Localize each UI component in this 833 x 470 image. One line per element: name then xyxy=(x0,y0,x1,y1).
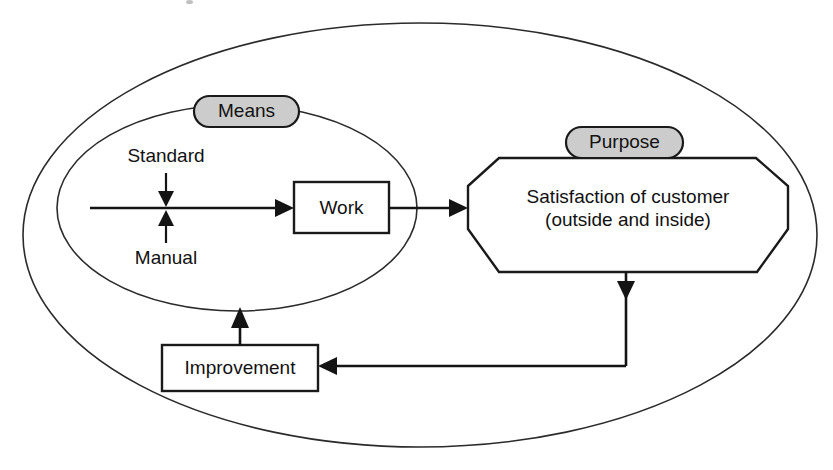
feedback-to-improvement-arrowhead xyxy=(318,357,337,375)
satisfaction-node-label-line1: Satisfaction of customer xyxy=(527,186,730,207)
means-purpose-diagram: Standard Manual Work Satisfaction of cus… xyxy=(0,0,833,470)
improvement-node-label: Improvement xyxy=(185,357,297,378)
means-pill-label: Means xyxy=(218,100,275,121)
scan-artifact-speck xyxy=(186,0,193,4)
standard-arrowhead xyxy=(158,191,174,207)
feedback-down-arrowhead xyxy=(617,281,635,300)
diagram-canvas: Standard Manual Work Satisfaction of cus… xyxy=(0,0,833,470)
input-stream-arrowhead xyxy=(275,199,294,217)
satisfaction-node-label-line2: (outside and inside) xyxy=(545,209,711,230)
work-node-label: Work xyxy=(320,197,364,218)
manual-arrowhead xyxy=(158,210,174,226)
work-to-satisfaction-arrowhead xyxy=(449,199,468,217)
standard-label: Standard xyxy=(127,145,204,166)
manual-label: Manual xyxy=(135,247,197,268)
purpose-pill-label: Purpose xyxy=(589,131,660,152)
